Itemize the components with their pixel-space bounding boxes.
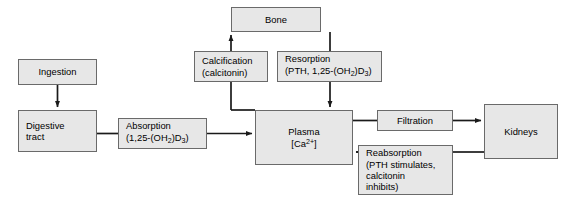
node-bone-label: Bone [265, 14, 287, 25]
node-digestive-tract: Digestive tract [18, 110, 97, 152]
node-resorption: Resorption (PTH, 1,25-(OH2)D3) [277, 51, 382, 82]
node-filtration: Filtration [377, 110, 453, 131]
node-absorption-formula: (1,25-(OH2)D3) [126, 132, 189, 147]
node-plasma-ion: [Ca2+] [291, 137, 316, 149]
node-calcification: Calcification (calcitonin) [194, 51, 268, 82]
node-ingestion-label: Ingestion [38, 66, 76, 77]
node-reabsorption: Reabsorption (PTH stimulates, calcitonin… [358, 145, 453, 195]
node-digestive-tract-label-line2: tract [26, 131, 44, 142]
node-absorption-label-line1: Absorption [126, 120, 171, 131]
node-kidneys: Kidneys [484, 104, 558, 159]
node-absorption: Absorption (1,25-(OH2)D3) [118, 118, 207, 149]
node-calcification-label-line2: (calcitonin) [202, 67, 247, 78]
node-calcification-label-line1: Calcification [202, 55, 253, 66]
node-plasma: Plasma [Ca2+] [255, 110, 353, 165]
node-kidneys-label: Kidneys [504, 126, 537, 137]
node-filtration-label: Filtration [397, 115, 433, 126]
node-reabsorption-label-line1: Reabsorption [366, 147, 422, 158]
node-digestive-tract-label-line1: Digestive [26, 120, 65, 131]
calcium-homeostasis-diagram: Ingestion Digestive tract Absorption (1,… [0, 0, 566, 203]
node-plasma-label-line1: Plasma [288, 126, 319, 137]
node-reabsorption-label-line2: (PTH stimulates, [366, 159, 435, 170]
node-resorption-formula: (PTH, 1,25-(OH2)D3) [285, 65, 372, 80]
node-bone: Bone [231, 7, 321, 32]
node-reabsorption-label-line3: calcitonin [366, 170, 405, 181]
node-resorption-label-line1: Resorption [285, 53, 330, 64]
node-reabsorption-label-line4: inhibits) [366, 181, 398, 192]
node-ingestion: Ingestion [18, 59, 97, 85]
